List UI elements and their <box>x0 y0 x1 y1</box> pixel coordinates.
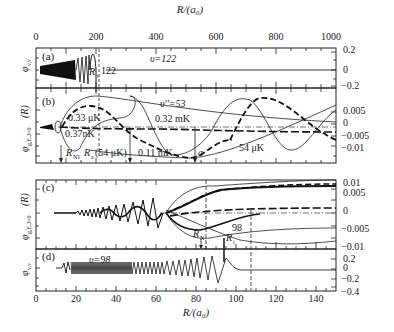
svg-text:N1: N1 <box>73 154 80 160</box>
svg-text:0.005: 0.005 <box>343 187 366 198</box>
label-0-33-uK: 0.33 μK <box>68 112 101 123</box>
svg-text:−0.005: −0.005 <box>341 130 369 141</box>
panel-a: (a) υ=122 R t 122 0.2 0 −0.2 φ v,v <box>19 44 359 92</box>
label-a: a <box>198 147 203 158</box>
bottom-tick-labels: 0 20 40 60 80 100 120 140 <box>34 293 324 304</box>
svg-text:g,E,J=0: g,E,J=0 <box>26 216 32 234</box>
svg-text:−0.2: −0.2 <box>341 80 359 91</box>
svg-text:140: 140 <box>309 293 324 304</box>
svg-text:t: t <box>233 239 235 245</box>
label-RN: R <box>192 228 199 239</box>
svg-text:−0.2: −0.2 <box>341 273 359 284</box>
svg-text:N: N <box>200 235 205 241</box>
svg-text:−0.01: −0.01 <box>341 142 364 153</box>
label-Ra: R <box>83 147 90 158</box>
svg-text:0: 0 <box>343 262 348 273</box>
svg-text:(R): (R) <box>19 193 31 206</box>
label-Rt: R <box>225 232 232 243</box>
svg-text:0: 0 <box>343 64 348 75</box>
bottom-xlabel: R/(a₀) <box>182 306 210 319</box>
svg-text:0.2: 0.2 <box>343 44 356 55</box>
panel-b-v-label: υ''=53 <box>160 98 186 109</box>
svg-text:g,E,J=0: g,E,J=0 <box>26 128 32 146</box>
svg-text:400: 400 <box>149 31 164 42</box>
svg-text:0: 0 <box>343 205 348 216</box>
svg-text:600: 600 <box>209 31 224 42</box>
svg-text:800: 800 <box>269 31 284 42</box>
panel-d-tag: (d) <box>42 250 55 263</box>
svg-text:v,v: v,v <box>26 59 32 66</box>
svg-text:20: 20 <box>71 293 81 304</box>
panel-a-tag: (a) <box>42 50 55 63</box>
panel-a-n: 122 <box>101 65 116 76</box>
svg-text:(R): (R) <box>19 105 31 118</box>
svg-text:80: 80 <box>191 293 201 304</box>
top-xlabel: R/(a₀) <box>176 3 204 16</box>
panel-d-v-label: υ=98 <box>89 254 110 265</box>
panel-a-v-label: υ=122 <box>150 53 176 64</box>
svg-text:100: 100 <box>229 293 244 304</box>
svg-text:0: 0 <box>343 117 348 128</box>
svg-text:(54 μK): (54 μK) <box>95 147 127 159</box>
label-RN1: R <box>65 147 72 158</box>
svg-text:40: 40 <box>111 293 121 304</box>
figure: R/(a₀) 0 200 400 600 800 1000 <box>0 0 394 332</box>
svg-text:−0.01: −0.01 <box>341 241 364 252</box>
panel-b: (b) υ''=53 0.33 μK 0.32 mK 0.37nK R N1 R… <box>19 88 369 163</box>
panel-d: (d) υ=98 0.2 0 −0.2 −0.4 φ v,v <box>19 242 359 297</box>
panel-c-tag: (c) <box>42 181 55 194</box>
svg-text:1000: 1000 <box>321 31 341 42</box>
panel-a-rt: R <box>88 66 95 77</box>
svg-text:−0.4: −0.4 <box>341 286 359 297</box>
svg-text:0: 0 <box>34 31 39 42</box>
label-98: 98 <box>232 222 242 233</box>
svg-text:0: 0 <box>34 293 39 304</box>
svg-text:v,v: v,v <box>26 263 32 270</box>
label-0-11-mK: 0.11 mK <box>138 147 173 158</box>
svg-text:0.005: 0.005 <box>343 105 366 116</box>
panel-b-tag: (b) <box>42 95 55 108</box>
label-0-37-nK: 0.37nK <box>65 128 96 139</box>
top-tick-labels: 0 200 400 600 800 1000 <box>34 31 342 42</box>
svg-text:60: 60 <box>151 293 161 304</box>
svg-text:−0.005: −0.005 <box>341 223 369 234</box>
svg-text:120: 120 <box>269 293 284 304</box>
label-54-uK: 54 μK <box>239 142 265 153</box>
label-0-32-mK: 0.32 mK <box>155 113 191 124</box>
svg-text:200: 200 <box>89 31 104 42</box>
svg-text:a: a <box>91 154 94 160</box>
